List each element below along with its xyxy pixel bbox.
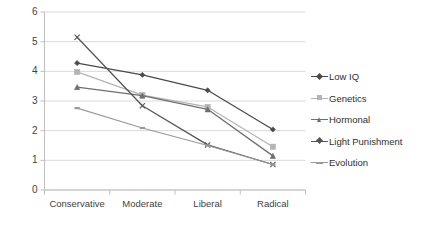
legend-label: Low IQ [328,71,359,82]
legend-label: Hormonal [328,114,370,125]
legend-item-evolution[interactable]: Evolution [311,152,421,174]
legend-item-genetics[interactable]: Genetics [311,88,421,110]
legend-label: Light Punishment [328,136,402,147]
legend-marker-icon [311,71,328,83]
data-point [75,60,80,65]
legend-item-light-punishment[interactable]: Light Punishment [311,131,421,153]
x-axis-tick-marks [45,190,306,195]
data-point [75,69,80,74]
legend-marker-icon [311,92,328,104]
y-axis-tick-label: 2 [16,126,38,136]
y-axis-tick-label: 4 [16,66,38,76]
series-line [77,87,273,156]
legend-marker-icon [311,157,328,169]
legend-item-hormonal[interactable]: Hormonal [311,109,421,131]
data-point [270,144,275,149]
x-axis-label-liberal: Liberal [175,198,240,209]
legend-marker-icon [311,114,328,126]
x-axis-label-conservative: Conservative [45,198,110,209]
line-chart: 6543210 ConservativeModerateLiberalRadic… [0,0,421,234]
y-axis-tick-label: 1 [16,155,38,165]
y-axis-tick-label: 3 [16,96,38,106]
series-line [77,108,273,164]
legend-marker-icon [311,135,328,147]
y-axis-tick-label: 0 [16,185,38,195]
series-hormonal [75,84,276,158]
x-axis-label-radical: Radical [240,198,305,209]
data-point [140,72,145,77]
x-axis-label-moderate: Moderate [110,198,175,209]
chart-legend: Low IQGeneticsHormonalLight PunishmentEv… [311,66,421,174]
legend-item-low-iq[interactable]: Low IQ [311,66,421,88]
series-line [77,63,273,129]
y-axis-tick-label: 6 [16,7,38,17]
y-axis-tick-label: 5 [16,37,38,47]
legend-label: Genetics [328,93,367,104]
legend-label: Evolution [328,157,368,168]
